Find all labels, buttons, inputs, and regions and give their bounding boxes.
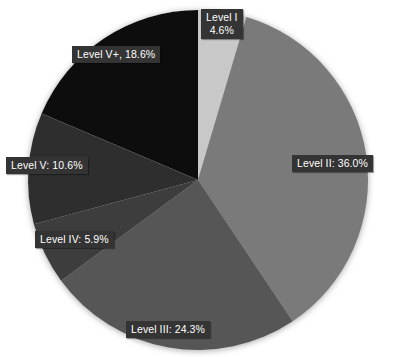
pie-chart-figure: Level I 4.6% Level II: 36.0% Level III: …: [0, 0, 396, 357]
pie-label-level-i-line2: 4.6%: [206, 24, 238, 37]
pie-label-level-v-plus: Level V+, 18.6%: [72, 46, 160, 63]
pie-label-level-v: Level V: 10.6%: [6, 157, 88, 174]
pie-label-level-i: Level I 4.6%: [201, 9, 243, 39]
pie-label-level-i-line1: Level I: [206, 11, 238, 23]
pie-label-level-ii: Level II: 36.0%: [292, 155, 373, 172]
pie-chart-canvas: [0, 0, 396, 357]
pie-label-level-iv: Level IV: 5.9%: [35, 231, 114, 248]
pie-label-level-iii: Level III: 24.3%: [126, 321, 210, 338]
